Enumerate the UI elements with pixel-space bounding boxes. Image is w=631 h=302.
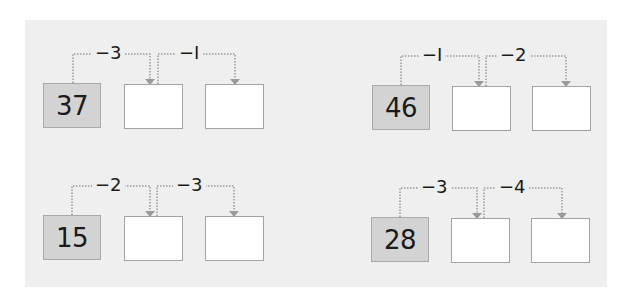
start-number-box: 46 bbox=[372, 85, 430, 130]
start-number-box: 28 bbox=[371, 217, 429, 262]
step-1-label: −I bbox=[419, 45, 445, 65]
answer-box-2[interactable] bbox=[205, 216, 264, 261]
answer-box-1[interactable] bbox=[452, 86, 511, 131]
answer-box-2[interactable] bbox=[532, 86, 591, 131]
start-number-box: 15 bbox=[43, 215, 101, 260]
answer-box-1[interactable] bbox=[124, 216, 183, 261]
answer-box-1[interactable] bbox=[451, 218, 510, 263]
start-number-box: 37 bbox=[43, 83, 101, 128]
step-1-label: −2 bbox=[92, 175, 125, 195]
subtraction-chain-4: −3 −4 28 bbox=[371, 187, 601, 287]
subtraction-chain-3: −2 −3 15 bbox=[43, 185, 273, 285]
step-1-label: −3 bbox=[418, 177, 451, 197]
step-2-label: −3 bbox=[173, 175, 206, 195]
answer-box-1[interactable] bbox=[124, 84, 183, 129]
subtraction-chain-2: −I −2 46 bbox=[372, 55, 602, 155]
answer-box-2[interactable] bbox=[531, 218, 590, 263]
step-1-label: −3 bbox=[92, 43, 125, 63]
step-2-label: −I bbox=[176, 43, 202, 63]
step-2-label: −4 bbox=[496, 177, 529, 197]
step-2-label: −2 bbox=[497, 45, 530, 65]
answer-box-2[interactable] bbox=[205, 84, 264, 129]
subtraction-chain-1: −3 −I 37 bbox=[43, 53, 273, 153]
